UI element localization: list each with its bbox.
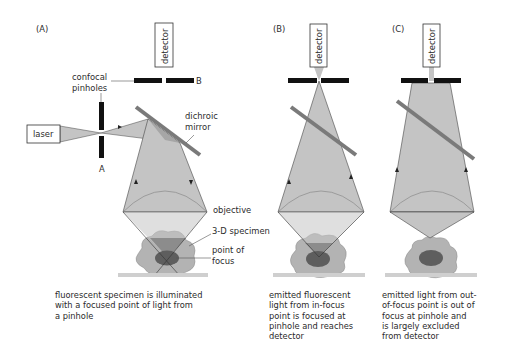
detector-label: detector bbox=[314, 28, 324, 64]
pinhole-a-bottom-bar bbox=[99, 136, 104, 158]
pinhole-right-bar bbox=[434, 78, 461, 83]
emission-cone-upper bbox=[278, 81, 364, 212]
pinhole-left-bar bbox=[401, 78, 428, 83]
pinhole-a-label: A bbox=[99, 164, 105, 174]
detector-label: detector bbox=[427, 28, 437, 64]
focus-label-line2: focus bbox=[212, 256, 234, 266]
focus-label-line1: point of bbox=[212, 245, 245, 255]
emission-cone-lower bbox=[390, 212, 474, 238]
pinhole-a-top-bar bbox=[99, 102, 104, 130]
caption-c: emitted light from out- of-focus point i… bbox=[382, 290, 477, 341]
mirror-label-line1: dichroic bbox=[185, 111, 218, 121]
specimen-label: 3-D specimen bbox=[212, 226, 270, 236]
pinhole-b-label: B bbox=[196, 76, 202, 86]
panel-a-tag: (A) bbox=[36, 24, 48, 34]
panel-b: (B) detector bbox=[273, 24, 365, 278]
stage-b bbox=[273, 273, 365, 277]
pinhole-left-bar bbox=[288, 78, 317, 83]
panel-a-detector: detector bbox=[155, 23, 173, 67]
specimen-leader bbox=[189, 234, 211, 246]
panel-c-tag: (C) bbox=[392, 24, 404, 34]
beam-to-detector bbox=[429, 67, 434, 81]
stage-c bbox=[385, 273, 477, 277]
objective-label: objective bbox=[213, 205, 251, 215]
focus-point bbox=[155, 251, 179, 266]
caption-a: fluorescent specimen is illuminated with… bbox=[55, 290, 202, 321]
panel-a: (A) detector B confocal pinholes laser A bbox=[27, 23, 270, 277]
panel-b-tag: (B) bbox=[273, 24, 285, 34]
mirror-leader bbox=[186, 135, 194, 143]
pinhole-right-bar bbox=[321, 78, 349, 83]
out-of-focus-point bbox=[419, 250, 443, 266]
panel-c-detector: detector bbox=[423, 24, 440, 67]
caption-b: emitted fluorescent light from in-focus … bbox=[269, 290, 353, 341]
pinhole-b-left-bar bbox=[134, 78, 162, 83]
laser-beam-in bbox=[60, 126, 101, 142]
confocal-label-line2: pinholes bbox=[72, 83, 107, 93]
confocal-label-line1: confocal bbox=[72, 72, 107, 82]
focus-point bbox=[306, 251, 330, 267]
stage-a bbox=[118, 273, 208, 277]
laser-source: laser bbox=[27, 125, 60, 143]
laser-label: laser bbox=[33, 129, 54, 139]
mirror-label-line2: mirror bbox=[185, 122, 211, 132]
panel-b-detector: detector bbox=[310, 24, 327, 67]
detector-label: detector bbox=[160, 28, 170, 64]
panel-c: (C) detector bbox=[385, 24, 477, 278]
pinhole-b-right-bar bbox=[166, 78, 194, 83]
